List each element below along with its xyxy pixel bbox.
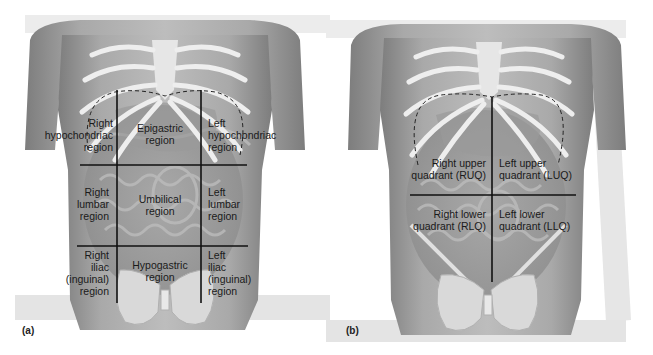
label-rlq: Right lower quadrant (RLQ)	[386, 208, 486, 232]
torso-illustration-b	[326, 0, 653, 355]
label-left-lumbar: Left lumbar region	[208, 186, 268, 222]
panel-a-nine-regions: Right hypochondriac region Epigastric re…	[0, 0, 330, 355]
label-hypogastric: Hypogastric region	[120, 259, 200, 283]
label-left-hypochondriac: Left hypochondriac region	[208, 117, 293, 153]
label-right-hypochondriac: Right hypochondriac region	[30, 117, 113, 153]
label-right-lumbar: Right lumbar region	[50, 186, 109, 222]
torso-illustration-a	[0, 0, 330, 355]
label-luq: Left upper quadrant (LUQ)	[499, 157, 599, 181]
panel-b-four-quadrants: Right upper quadrant (RUQ) Left upper qu…	[326, 0, 653, 355]
label-right-iliac: Right iliac (inguinal) region	[50, 249, 109, 297]
label-left-iliac: Left iliac (inguinal) region	[208, 249, 268, 297]
label-umbilical: Umbilical region	[120, 193, 200, 217]
label-epigastric: Epigastric region	[120, 122, 200, 146]
panel-tag-a: (a)	[22, 325, 34, 336]
panel-tag-b: (b)	[346, 325, 359, 336]
label-llq: Left lower quadrant (LLQ)	[499, 208, 599, 232]
label-ruq: Right upper quadrant (RUQ)	[386, 157, 486, 181]
